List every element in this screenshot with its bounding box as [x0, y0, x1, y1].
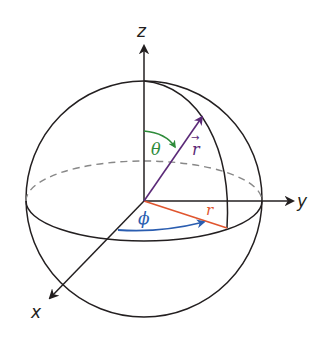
phi-arc — [118, 222, 204, 231]
r-vector-arrow — [144, 117, 202, 201]
x-axis — [50, 201, 144, 298]
z-axis-label: z — [136, 21, 147, 41]
x-axis-label: x — [30, 302, 42, 322]
theta-label: θ — [151, 140, 161, 159]
r-projection-line — [144, 201, 227, 228]
spherical-coordinates-diagram: z y x θ ϕ r → r — [0, 0, 324, 340]
y-axis-label: y — [296, 191, 308, 211]
r-vector-arrow-accent: → — [191, 132, 199, 143]
phi-label: ϕ — [138, 208, 150, 228]
r-projection-label: r — [206, 201, 214, 219]
